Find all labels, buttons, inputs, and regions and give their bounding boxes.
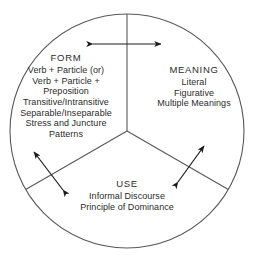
sector-meaning-line-2: Figurative [140, 88, 248, 99]
meaning-use-arrow [178, 146, 204, 182]
sector-meaning: MEANING Literal Figurative Multiple Mean… [140, 64, 248, 109]
sector-use-line-1: Informal Discourse [60, 191, 194, 202]
sector-form-line-1: Verb + Particle (or) [8, 65, 124, 76]
sector-form: FORM Verb + Particle (or) Verb + Particl… [8, 52, 124, 139]
sector-use: USE Informal Discourse Principle of Domi… [60, 178, 194, 212]
sector-form-title: FORM [8, 52, 124, 63]
sector-form-line-4: Transitive/Intransitive [8, 97, 124, 108]
sector-form-line-7: Patterns [8, 129, 124, 140]
sector-form-line-5: Separable/Inseparable [8, 108, 124, 119]
sector-form-line-3: Preposition [8, 86, 124, 97]
sector-use-title: USE [60, 178, 194, 189]
sector-form-line-2: Verb + Particle + [8, 76, 124, 87]
form-meaning-use-diagram: FORM Verb + Particle (or) Verb + Particl… [0, 0, 260, 260]
sector-meaning-line-3: Multiple Meanings [140, 98, 248, 109]
sector-form-line-6: Stress and Juncture [8, 118, 124, 129]
sector-meaning-title: MEANING [140, 64, 248, 75]
sector-meaning-line-1: Literal [140, 77, 248, 88]
sector-use-line-2: Principle of Dominance [60, 202, 194, 213]
